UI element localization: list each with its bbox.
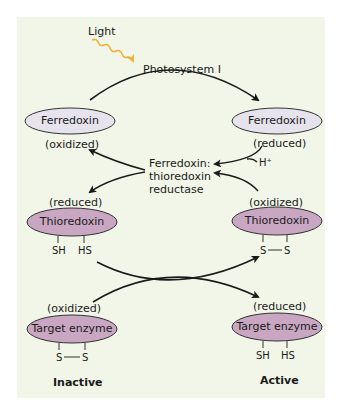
target-reduced-group-2: HS — [281, 349, 295, 362]
thioredoxin-reduced-state: (reduced) — [49, 196, 102, 209]
h-plus-label: H⁺ — [259, 156, 272, 169]
thioredoxin-oxidized-group-2: S — [284, 244, 290, 257]
photosystem-label: Photosystem I — [143, 63, 221, 76]
target-reduced-group-1: SH — [256, 349, 270, 362]
target-oxidized-name: Target enzyme — [27, 322, 117, 335]
to-thioredoxin-reduced-arrow — [90, 172, 145, 192]
from-thioredoxin-oxidized-arrow — [215, 173, 258, 191]
reductase-label-1: Ferredoxin: — [149, 157, 211, 170]
h-plus-branch — [247, 159, 257, 162]
thioredoxin-reduced-group-2: HS — [78, 244, 92, 257]
active-label: Active — [260, 374, 299, 387]
thioredoxin-oxidized-name: Thioredoxin — [232, 214, 322, 227]
ferredoxin-reduced-state: (reduced) — [253, 137, 306, 150]
target-oxidized-state: (oxidized) — [47, 302, 101, 315]
reductase-label-3: reductase — [149, 183, 204, 196]
thioredoxin-oxidized-group-1: S — [260, 244, 266, 257]
reductase-label-2: thioredoxin — [149, 170, 211, 183]
light-wave-icon — [92, 39, 133, 61]
thioredoxin-oxidized-state: (oxidized) — [249, 196, 303, 209]
thioredoxin-reduced-group-1: SH — [52, 244, 66, 257]
light-label: Light — [88, 25, 115, 38]
target-oxidized-group-2: S — [82, 351, 88, 364]
ferredoxin-oxidized-state: (oxidized) — [45, 138, 99, 151]
to-ferredoxin-oxidized-arrow — [90, 150, 145, 170]
thioredoxin-reduced-name: Thioredoxin — [27, 215, 117, 228]
ferredoxin-reduced-name: Ferredoxin — [232, 114, 322, 127]
ferredoxin-oxidized-name: Ferredoxin — [25, 114, 115, 127]
target-reduced-name: Target enzyme — [232, 320, 322, 333]
target-reduced-state: (reduced) — [253, 300, 306, 313]
target-to-reduced-arrow — [93, 277, 258, 302]
target-oxidized-group-1: S — [56, 351, 62, 364]
inactive-label: Inactive — [53, 376, 103, 389]
